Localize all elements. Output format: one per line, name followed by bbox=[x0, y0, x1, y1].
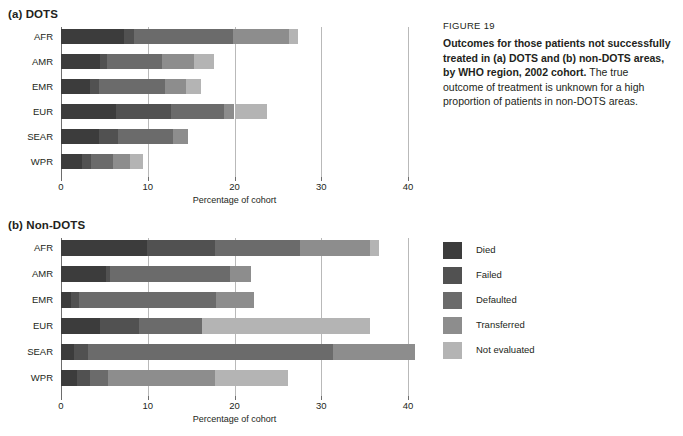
bar-segment-not-evaluated bbox=[186, 79, 201, 94]
gridline-10 bbox=[148, 27, 149, 177]
bar-segment-defaulted bbox=[99, 79, 165, 94]
stacked-bar bbox=[61, 54, 214, 69]
legend-label: Defaulted bbox=[476, 294, 517, 305]
bar-segment-died bbox=[61, 370, 77, 386]
stacked-bar bbox=[61, 79, 201, 94]
bar-segment-died bbox=[61, 54, 100, 69]
stacked-bar bbox=[61, 266, 251, 282]
legend-item-died: Died bbox=[443, 240, 613, 265]
bar-segment-defaulted bbox=[110, 266, 231, 282]
bar-segment-transferred bbox=[162, 54, 193, 69]
legend-item-transferred: Transferred bbox=[443, 315, 613, 340]
x-tick-label-30: 30 bbox=[316, 181, 327, 192]
bar-segment-transferred bbox=[165, 79, 186, 94]
bar-segment-defaulted bbox=[88, 344, 333, 360]
category-label-wpr: WPR bbox=[31, 154, 53, 169]
figure-caption-title: Outcomes for those patients not successf… bbox=[443, 37, 671, 78]
x-tick-label-0: 0 bbox=[58, 400, 63, 411]
bar-segment-died bbox=[61, 292, 71, 308]
bar-segment-defaulted bbox=[91, 154, 113, 169]
stacked-bar bbox=[61, 292, 254, 308]
bar-segment-defaulted bbox=[90, 370, 108, 386]
bar-segment-failed bbox=[100, 318, 139, 334]
legend-swatch-transferred bbox=[443, 317, 462, 334]
figure-caption-text: Outcomes for those patients not successf… bbox=[443, 36, 671, 109]
x-tick-label-20: 20 bbox=[229, 400, 240, 411]
category-label-afr: AFR bbox=[34, 29, 53, 44]
legend-label: Not evaluated bbox=[476, 344, 535, 355]
x-tick-label-10: 10 bbox=[142, 400, 153, 411]
bar-segment-died bbox=[61, 104, 116, 119]
panel-a-x-title: Percentage of cohort bbox=[61, 195, 408, 205]
legend-item-defaulted: Defaulted bbox=[443, 290, 613, 315]
bar-segment-died bbox=[61, 79, 90, 94]
bar-segment-not-evaluated bbox=[130, 154, 144, 169]
category-label-sear: SEAR bbox=[27, 344, 53, 359]
bar-segment-died bbox=[61, 318, 100, 334]
panel-a-title: (a) DOTS bbox=[8, 8, 58, 20]
bar-segment-died bbox=[61, 129, 99, 144]
figure-page: (a) DOTS AFRAMREMREURSEARWPR 010203040 P… bbox=[0, 0, 683, 436]
x-tick-label-40: 40 bbox=[403, 400, 414, 411]
bar-segment-failed bbox=[147, 240, 216, 256]
stacked-bar bbox=[61, 104, 267, 119]
x-tick-label-0: 0 bbox=[58, 181, 63, 192]
panel-b-plot-area: AFRAMREMREURSEARWPR bbox=[61, 238, 408, 396]
charts-column: (a) DOTS AFRAMREMREURSEARWPR 010203040 P… bbox=[0, 0, 432, 436]
legend-label: Died bbox=[476, 244, 496, 255]
stacked-bar bbox=[61, 240, 379, 256]
bar-segment-not-evaluated bbox=[370, 240, 379, 256]
figure-number: FIGURE 19 bbox=[443, 20, 671, 31]
bar-segment-failed bbox=[99, 129, 118, 144]
bar-segment-not-evaluated bbox=[289, 29, 298, 44]
legend-item-not-evaluated: Not evaluated bbox=[443, 340, 613, 365]
category-label-sear: SEAR bbox=[27, 129, 53, 144]
stacked-bar bbox=[61, 154, 143, 169]
stacked-bar bbox=[61, 129, 188, 144]
legend-label: Failed bbox=[476, 269, 502, 280]
bar-segment-defaulted bbox=[134, 29, 233, 44]
x-tick-label-10: 10 bbox=[142, 181, 153, 192]
stacked-bar bbox=[61, 344, 415, 360]
panel-a-plot-area: AFRAMREMREURSEARWPR bbox=[61, 27, 408, 177]
panel-dots: (a) DOTS AFRAMREMREURSEARWPR 010203040 P… bbox=[0, 8, 432, 213]
category-label-emr: EMR bbox=[32, 79, 53, 94]
bar-segment-not-evaluated bbox=[194, 54, 214, 69]
bar-segment-not-evaluated bbox=[235, 104, 268, 119]
bar-segment-defaulted bbox=[171, 104, 224, 119]
stacked-bar bbox=[61, 370, 288, 386]
bar-segment-transferred bbox=[113, 154, 129, 169]
bar-segment-defaulted bbox=[79, 292, 216, 308]
gridline-20 bbox=[235, 27, 236, 177]
bar-segment-not-evaluated bbox=[202, 318, 370, 334]
bar-segment-transferred bbox=[216, 292, 254, 308]
stacked-bar bbox=[61, 318, 370, 334]
bar-segment-transferred bbox=[108, 370, 216, 386]
legend-label: Transferred bbox=[476, 319, 525, 330]
panel-a-x-axis: 010203040 bbox=[61, 177, 408, 193]
bar-segment-died bbox=[61, 240, 147, 256]
x-tick-label-30: 30 bbox=[316, 400, 327, 411]
bar-segment-defaulted bbox=[139, 318, 201, 334]
bar-segment-failed bbox=[74, 344, 88, 360]
bar-segment-died bbox=[61, 154, 82, 169]
bar-segment-failed bbox=[124, 29, 134, 44]
category-label-eur: EUR bbox=[33, 318, 53, 333]
bar-segment-not-evaluated bbox=[215, 370, 288, 386]
stacked-bar bbox=[61, 29, 298, 44]
bar-segment-transferred bbox=[173, 129, 188, 144]
category-label-amr: AMR bbox=[32, 266, 53, 281]
bar-segment-defaulted bbox=[215, 240, 300, 256]
legend-swatch-defaulted bbox=[443, 292, 462, 309]
bar-segment-transferred bbox=[224, 104, 234, 119]
legend-item-failed: Failed bbox=[443, 265, 613, 290]
bar-segment-failed bbox=[90, 79, 99, 94]
bar-segment-died bbox=[61, 29, 124, 44]
legend-swatch-failed bbox=[443, 267, 462, 284]
bar-segment-transferred bbox=[333, 344, 415, 360]
category-label-afr: AFR bbox=[34, 240, 53, 255]
category-label-amr: AMR bbox=[32, 54, 53, 69]
bar-segment-transferred bbox=[300, 240, 369, 256]
bar-segment-died bbox=[61, 266, 106, 282]
bar-segment-defaulted bbox=[107, 54, 163, 69]
